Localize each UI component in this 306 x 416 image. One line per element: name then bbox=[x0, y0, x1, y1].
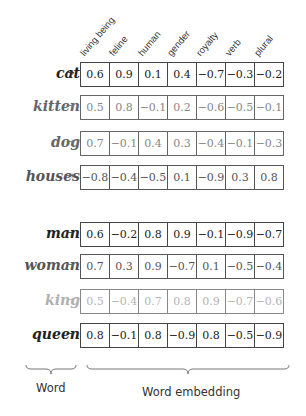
embedding-cell: −0.5 bbox=[226, 96, 255, 119]
embedding-vector: 0.60.90.10.4−0.7−0.3−0.2 bbox=[80, 62, 284, 87]
right-arrow-icon: → bbox=[66, 170, 74, 181]
dimension-label: human bbox=[136, 29, 163, 58]
embedding-cell: −0.1 bbox=[197, 223, 226, 246]
embedding-cell: −0.1 bbox=[139, 96, 168, 119]
word-row-kitten: kitten→0.50.8−0.10.2−0.6−0.5−0.1 bbox=[0, 95, 306, 120]
word-label: Word bbox=[36, 381, 66, 395]
word-row-woman: woman→0.70.30.9−0.70.1−0.5−0.4 bbox=[0, 254, 306, 279]
embedding-cell: −0.9 bbox=[197, 166, 226, 189]
embedding-cell: 0.2 bbox=[168, 96, 197, 119]
embedding-brace-icon bbox=[86, 364, 290, 380]
embedding-cell: −0.9 bbox=[226, 223, 255, 246]
embedding-cell: 0.9 bbox=[197, 290, 226, 313]
right-arrow-icon: → bbox=[66, 328, 74, 339]
right-arrow-icon: → bbox=[66, 294, 74, 305]
embedding-cell: 0.7 bbox=[139, 290, 168, 313]
word-row-man: man→0.6−0.20.80.9−0.1−0.9−0.7 bbox=[0, 222, 306, 247]
embedding-cell: 0.8 bbox=[197, 324, 226, 347]
embedding-cell: 0.9 bbox=[168, 223, 197, 246]
right-arrow-icon: → bbox=[66, 227, 74, 238]
embedding-cell: −0.2 bbox=[255, 63, 283, 86]
embedding-cell: 0.4 bbox=[139, 132, 168, 155]
dimension-label: plural bbox=[252, 33, 275, 58]
embedding-cell: −0.6 bbox=[197, 96, 226, 119]
word-row-cat: cat→0.60.90.10.4−0.7−0.3−0.2 bbox=[0, 62, 306, 87]
embedding-cell: 0.8 bbox=[110, 96, 139, 119]
embedding-cell: 0.6 bbox=[81, 63, 110, 86]
embedding-cell: 0.1 bbox=[139, 63, 168, 86]
word-brace-icon bbox=[25, 364, 77, 380]
embedding-cell: 0.8 bbox=[81, 324, 110, 347]
embedding-cell: 0.7 bbox=[81, 255, 110, 278]
embedding-cell: 0.5 bbox=[81, 290, 110, 313]
embedding-cell: −0.1 bbox=[255, 96, 283, 119]
embedding-cell: 0.9 bbox=[139, 255, 168, 278]
embedding-cell: 0.7 bbox=[81, 132, 110, 155]
embedding-cell: 0.1 bbox=[168, 166, 197, 189]
dimension-label: gender bbox=[165, 28, 192, 58]
embedding-vector: 0.70.30.9−0.70.1−0.5−0.4 bbox=[80, 254, 284, 279]
embedding-cell: 0.3 bbox=[168, 132, 197, 155]
right-arrow-icon: → bbox=[66, 136, 74, 147]
embedding-vector: 0.7−0.10.40.3−0.4−0.1−0.3 bbox=[80, 131, 284, 156]
right-arrow-icon: → bbox=[66, 100, 74, 111]
embedding-cell: −0.5 bbox=[226, 255, 255, 278]
embedding-cell: −0.9 bbox=[168, 324, 197, 347]
embedding-cell: −0.4 bbox=[255, 255, 283, 278]
embedding-cell: −0.3 bbox=[255, 132, 283, 155]
embedding-cell: 0.3 bbox=[226, 166, 255, 189]
embedding-cell: −0.1 bbox=[226, 132, 255, 155]
embedding-cell: 0.1 bbox=[197, 255, 226, 278]
word-row-king: king→0.5−0.40.70.80.9−0.7−0.6 bbox=[0, 289, 306, 314]
embedding-cell: −0.3 bbox=[226, 63, 255, 86]
word-row-queen: queen→0.8−0.10.8−0.90.8−0.5−0.9 bbox=[0, 323, 306, 348]
embedding-cell: 0.8 bbox=[139, 324, 168, 347]
embedding-cell: −0.8 bbox=[81, 166, 110, 189]
embedding-cell: −0.1 bbox=[110, 132, 139, 155]
embedding-vector: 0.6−0.20.80.9−0.1−0.9−0.7 bbox=[80, 222, 284, 247]
embedding-cell: 0.8 bbox=[255, 166, 283, 189]
embedding-cell: −0.7 bbox=[168, 255, 197, 278]
embedding-cell: −0.5 bbox=[139, 166, 168, 189]
embedding-cell: −0.1 bbox=[110, 324, 139, 347]
dimension-label: feline bbox=[107, 34, 130, 58]
embedding-cell: −0.4 bbox=[110, 166, 139, 189]
dimension-label: royalty bbox=[194, 29, 220, 58]
embedding-cell: −0.7 bbox=[255, 223, 283, 246]
embedding-cell: −0.7 bbox=[226, 290, 255, 313]
embedding-vector: 0.5−0.40.70.80.9−0.7−0.6 bbox=[80, 289, 284, 314]
embedding-vector: 0.50.8−0.10.2−0.6−0.5−0.1 bbox=[80, 95, 284, 120]
embedding-cell: −0.2 bbox=[110, 223, 139, 246]
embedding-cell: 0.8 bbox=[139, 223, 168, 246]
word-row-houses: houses→−0.8−0.4−0.50.1−0.90.30.8 bbox=[0, 165, 306, 190]
embedding-vector: 0.8−0.10.8−0.90.8−0.5−0.9 bbox=[80, 323, 284, 348]
dimension-header: living beingfelinehumangenderroyaltyverb… bbox=[0, 0, 306, 60]
embedding-cell: 0.5 bbox=[81, 96, 110, 119]
embedding-cell: 0.3 bbox=[110, 255, 139, 278]
embedding-cell: 0.9 bbox=[110, 63, 139, 86]
embedding-cell: −0.4 bbox=[197, 132, 226, 155]
embedding-cell: −0.5 bbox=[226, 324, 255, 347]
embedding-cell: 0.6 bbox=[81, 223, 110, 246]
right-arrow-icon: → bbox=[66, 67, 74, 78]
word-label: man bbox=[46, 225, 80, 241]
word-row-dog: dog→0.7−0.10.40.3−0.4−0.1−0.3 bbox=[0, 131, 306, 156]
embedding-vector: −0.8−0.4−0.50.1−0.90.30.8 bbox=[80, 165, 284, 190]
embedding-cell: 0.4 bbox=[168, 63, 197, 86]
dimension-label: verb bbox=[223, 37, 243, 58]
embedding-cell: −0.6 bbox=[255, 290, 283, 313]
word-label: king bbox=[45, 292, 80, 308]
word-embedding-label: Word embedding bbox=[142, 385, 240, 399]
embedding-cell: −0.4 bbox=[110, 290, 139, 313]
embedding-cell: −0.7 bbox=[197, 63, 226, 86]
embedding-cell: −0.9 bbox=[255, 324, 283, 347]
embedding-cell: 0.8 bbox=[168, 290, 197, 313]
right-arrow-icon: → bbox=[66, 259, 74, 270]
